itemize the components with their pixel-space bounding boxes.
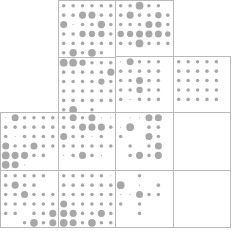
- matrix-dot: [155, 152, 162, 159]
- matrix-dot: [80, 202, 84, 206]
- matrix-dot: [4, 125, 8, 129]
- matrix-dot: [119, 88, 123, 92]
- matrix-dot: [90, 173, 94, 177]
- matrix-dot: [4, 211, 8, 215]
- matrix-dot: [32, 135, 36, 139]
- matrix-dot: [32, 173, 36, 177]
- matrix-dot: [98, 78, 104, 84]
- matrix-dot: [108, 192, 112, 196]
- matrix-dot: [166, 13, 170, 17]
- matrix-dot: [23, 135, 27, 139]
- matrix-dot: [108, 220, 112, 224]
- matrix-dot: [61, 70, 65, 74]
- matrix-dot: [71, 13, 75, 17]
- matrix-dot: [128, 3, 132, 7]
- matrix-dot: [42, 144, 46, 148]
- matrix-dot: [51, 135, 55, 139]
- matrix-dot: [4, 135, 8, 139]
- matrix-dot: [61, 32, 65, 36]
- matrix-dot: [127, 11, 134, 18]
- matrix-dot: [61, 50, 65, 54]
- matrix-dot: [214, 88, 218, 92]
- matrix-dot: [155, 11, 161, 17]
- matrix-dot: [128, 41, 132, 45]
- matrix-dot: [128, 69, 132, 73]
- matrix-dot: [138, 98, 142, 102]
- matrix-dot: [176, 60, 180, 64]
- matrix-dot: [99, 3, 103, 7]
- matrix-dot: [157, 183, 161, 187]
- matrix-dot: [80, 116, 84, 120]
- matrix-dot: [147, 3, 151, 7]
- matrix-dot: [127, 58, 134, 65]
- matrix-dot: [157, 88, 161, 92]
- matrix-dot: [100, 155, 101, 156]
- matrix-dot: [80, 22, 84, 26]
- matrix-dot: [214, 60, 218, 64]
- matrix-dot: [176, 69, 180, 73]
- matrix-dot: [23, 173, 27, 177]
- panel-D1: [115, 112, 174, 171]
- matrix-dot: [88, 11, 95, 18]
- matrix-dot: [97, 209, 104, 216]
- matrix-dot: [157, 125, 161, 129]
- matrix-dot: [99, 144, 103, 148]
- matrix-dot: [128, 154, 132, 158]
- matrix-dot: [88, 124, 95, 131]
- matrix-dot: [61, 89, 65, 93]
- matrix-dot: [80, 50, 84, 54]
- matrix-dot: [90, 89, 94, 93]
- matrix-dot: [79, 11, 86, 18]
- block-bottom-right: [116, 113, 231, 228]
- matrix-dot: [69, 114, 76, 121]
- matrix-dot: [145, 114, 152, 121]
- matrix-dot: [138, 69, 142, 73]
- matrix-dot: [119, 135, 123, 139]
- matrix-dot: [155, 21, 161, 27]
- matrix-dot: [136, 191, 143, 198]
- matrix-dot: [138, 202, 142, 206]
- matrix-dot: [79, 152, 86, 159]
- matrix-dot: [4, 183, 8, 187]
- matrix-dot: [71, 70, 75, 74]
- matrix-dot: [99, 50, 103, 54]
- matrix-dot: [12, 152, 19, 159]
- matrix-dot: [90, 144, 94, 148]
- matrix-dot: [166, 22, 170, 26]
- matrix-dot: [63, 155, 64, 156]
- matrix-dot: [214, 98, 218, 102]
- matrix-dot: [147, 125, 151, 129]
- matrix-dot: [32, 211, 36, 215]
- matrix-dot: [51, 144, 55, 148]
- matrix-dot: [214, 79, 218, 83]
- matrix-dot: [12, 114, 19, 121]
- matrix-dot: [136, 77, 143, 84]
- matrix-dot: [61, 125, 65, 129]
- panel-C1: [0, 112, 59, 171]
- matrix-dot: [139, 184, 140, 185]
- matrix-dot: [61, 116, 65, 120]
- matrix-dot: [147, 98, 151, 102]
- matrix-dot: [99, 192, 103, 196]
- matrix-dot: [176, 79, 180, 83]
- matrix-dot: [97, 20, 104, 27]
- matrix-dot: [155, 142, 162, 149]
- matrix-dot: [71, 192, 75, 196]
- matrix-dot: [42, 135, 46, 139]
- matrix-dot: [136, 87, 142, 93]
- matrix-dot: [80, 183, 84, 187]
- matrix-dot: [99, 70, 103, 74]
- matrix-dot: [42, 116, 46, 120]
- matrix-dot: [71, 80, 75, 84]
- matrix-dot: [51, 192, 55, 196]
- matrix-dot: [176, 98, 180, 102]
- matrix-dot: [23, 183, 27, 187]
- matrix-dot: [120, 194, 121, 195]
- matrix-dot: [2, 142, 9, 149]
- matrix-dot: [60, 133, 67, 140]
- matrix-dot: [51, 202, 55, 206]
- panel-D4: [173, 170, 232, 229]
- matrix-dot: [90, 202, 94, 206]
- matrix-dot: [119, 3, 123, 7]
- matrix-dot: [186, 79, 190, 83]
